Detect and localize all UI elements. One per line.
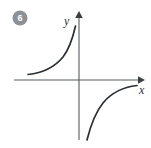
badge-number-label: 6 xyxy=(17,13,22,23)
y-axis: y xyxy=(63,11,83,140)
graph-figure: 6 x y xyxy=(0,0,151,148)
problem-number-badge: 6 xyxy=(13,11,28,26)
coordinate-plane-svg: 6 x y xyxy=(0,0,151,148)
x-axis-label: x xyxy=(138,83,145,97)
y-axis-label: y xyxy=(63,14,70,28)
curve-branch-quadrant-2 xyxy=(28,26,76,75)
y-axis-arrowhead-icon xyxy=(75,11,83,18)
curve-branch-quadrant-4 xyxy=(87,86,137,141)
